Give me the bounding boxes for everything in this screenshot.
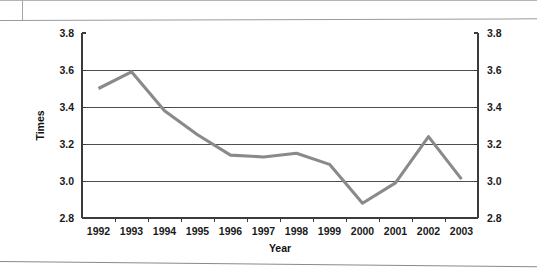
y-tick-label-right: 3.4 [487,101,502,113]
x-tick-label: 1992 [87,225,111,237]
chart-canvas: 3.83.63.43.23.02.8 3.83.63.43.23.02.8 19… [0,22,537,260]
y-tick-label-right: 3.2 [487,138,502,150]
page-corner-marker [0,0,23,20]
x-axis-labels: 1992199319941995199619971998199920002001… [87,225,474,237]
x-tick-label: 1994 [153,225,177,237]
x-tick-label: 2000 [351,225,375,237]
y-axis-labels-right: 3.83.63.43.23.02.8 [487,27,502,224]
y-tick-label-right: 3.8 [487,27,502,39]
y-tick-label-left: 3.8 [59,27,74,39]
x-tick-label: 2002 [417,225,441,237]
y-axis-labels-left: 3.83.63.43.23.02.8 [59,27,74,224]
y-tick-label-left: 3.2 [59,138,74,150]
x-tickmarks-group [115,218,445,222]
y-tick-label-right: 3.6 [487,64,502,76]
y-tickmarks-group [82,33,478,218]
y-tick-label-left: 3.4 [59,101,74,113]
x-tick-label: 2003 [450,225,474,237]
chart-page: 3.83.63.43.23.02.8 3.83.63.43.23.02.8 19… [0,0,537,279]
x-tick-label: 1998 [285,225,309,237]
x-axis-title: Year [269,242,291,254]
page-top-border [0,0,537,1]
y-tick-label-left: 2.8 [59,212,74,224]
x-tick-label: 1995 [186,225,210,237]
x-tick-label: 2001 [384,225,408,237]
bottom-horizontal-rule [0,261,537,267]
y-tick-label-left: 3.6 [59,64,74,76]
y-tick-label-right: 3.0 [487,175,502,187]
x-tick-label: 1999 [318,225,342,237]
plot-frame [82,33,478,218]
top-horizontal-rule [0,18,537,21]
x-tick-label: 1993 [120,225,144,237]
y-tick-label-right: 2.8 [487,212,502,224]
y-axis-title: Times [34,110,46,140]
line-chart: 3.83.63.43.23.02.8 3.83.63.43.23.02.8 19… [0,22,537,260]
x-tick-label: 1997 [252,225,276,237]
data-series-line [99,72,462,203]
y-tick-label-left: 3.0 [59,175,74,187]
x-tick-label: 1996 [219,225,243,237]
gridlines-group [82,70,478,181]
